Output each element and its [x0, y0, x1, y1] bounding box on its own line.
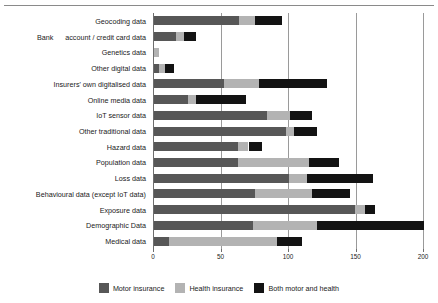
bar-segment-health: [169, 237, 277, 246]
bar-segment-motor: [154, 189, 255, 198]
bar-segment-motor: [154, 95, 188, 104]
bar-segment-both: [307, 174, 373, 183]
gridline-200: [423, 13, 424, 249]
bar-segment-health: [267, 111, 290, 120]
bar-segment-health: [255, 189, 312, 198]
y-axis-label: Geocoding data: [95, 17, 146, 26]
y-axis-label: Online media data: [88, 96, 146, 105]
bar-segment-health: [253, 221, 318, 230]
bar-segment-both: [317, 221, 424, 230]
bar-segment-motor: [154, 79, 224, 88]
bar-segment-both: [165, 64, 174, 73]
bar-segment-motor: [154, 142, 238, 151]
x-tick-label: 0: [151, 253, 155, 260]
y-axis-label: IoT sensor data: [96, 111, 146, 120]
bar-segment-both: [249, 142, 263, 151]
bar-segment-both: [312, 189, 350, 198]
y-axis-label: Hazard data: [107, 143, 146, 152]
legend-item[interactable]: Motor insurance: [99, 283, 165, 293]
legend-swatch-both: [254, 283, 264, 293]
bar-segment-motor: [154, 16, 239, 25]
y-axis-label: Demographic Data: [86, 221, 146, 230]
bar-segment-health: [289, 174, 307, 183]
bar-segment-motor: [154, 237, 169, 246]
bar-segment-motor: [154, 127, 286, 136]
bar-segment-health: [355, 205, 364, 214]
bar-segment-both: [255, 16, 282, 25]
bar-segment-health: [238, 158, 310, 167]
x-tick-label: 150: [350, 253, 361, 260]
y-axis-label: Other traditional data: [79, 127, 146, 136]
bar-segment-both: [290, 111, 312, 120]
chart-figure: Geocoding dataBankaccount / credit card …: [0, 0, 438, 303]
x-tick-label: 100: [283, 253, 294, 260]
bar-segment-health: [188, 95, 196, 104]
bar-segment-motor: [154, 205, 355, 214]
legend-item[interactable]: Health insurance: [175, 283, 243, 293]
y-axis-label: Genetics data: [102, 48, 146, 57]
y-axis-label: Loss data: [115, 174, 146, 183]
bar-segment-both: [184, 32, 196, 41]
legend-item[interactable]: Both motor and health: [254, 283, 339, 293]
bar-segment-both: [259, 79, 327, 88]
plot-area: [153, 13, 423, 249]
y-axis-category-labels: Geocoding dataBankaccount / credit card …: [0, 13, 150, 249]
legend-swatch-health: [175, 283, 185, 293]
x-tick-mark-150: [356, 249, 357, 252]
legend-label: Both motor and health: [268, 284, 339, 293]
bar-segment-health: [286, 127, 294, 136]
bar-segment-motor: [154, 111, 267, 120]
x-tick-mark-100: [288, 249, 289, 252]
legend-label: Motor insurance: [113, 284, 165, 293]
x-tick-label: 50: [217, 253, 224, 260]
legend-label: Health insurance: [189, 284, 243, 293]
bar-segment-both: [309, 158, 339, 167]
chart-legend: Motor insuranceHealth insuranceBoth moto…: [0, 280, 438, 296]
bar-segment-motor: [154, 32, 176, 41]
y-axis-label: Medical data: [105, 237, 146, 246]
y-axis-label: Insurers' own digitalised data: [54, 80, 146, 89]
bar-segment-health: [176, 32, 184, 41]
legend-swatch-motor: [99, 283, 109, 293]
y-axis-label: Exposure data: [100, 206, 146, 215]
bar-segment-motor: [154, 158, 238, 167]
bar-segment-motor: [154, 221, 253, 230]
x-tick-mark-50: [221, 249, 222, 252]
bar-segment-both: [196, 95, 246, 104]
bar-segment-health: [224, 79, 259, 88]
y-axis-label: Bankaccount / credit card data: [37, 33, 146, 42]
bar-segment-both: [365, 205, 376, 214]
bar-segment-health: [154, 48, 159, 57]
x-tick-mark-200: [423, 249, 424, 252]
bar-segment-both: [277, 237, 303, 246]
bar-rows: [153, 13, 423, 249]
bar-segment-health: [238, 142, 249, 151]
bar-segment-both: [294, 127, 317, 136]
top-divider: [4, 5, 434, 6]
y-axis-label: Behavioural data (except IoT data): [36, 190, 146, 199]
bar-segment-health: [239, 16, 255, 25]
y-axis-label: Population data: [96, 158, 146, 167]
y-axis-label: Other digital data: [91, 64, 146, 73]
bar-segment-motor: [154, 174, 289, 183]
x-axis-ticks: 050100150200: [153, 249, 423, 263]
x-tick-label: 200: [418, 253, 429, 260]
x-tick-mark-0: [153, 249, 154, 252]
